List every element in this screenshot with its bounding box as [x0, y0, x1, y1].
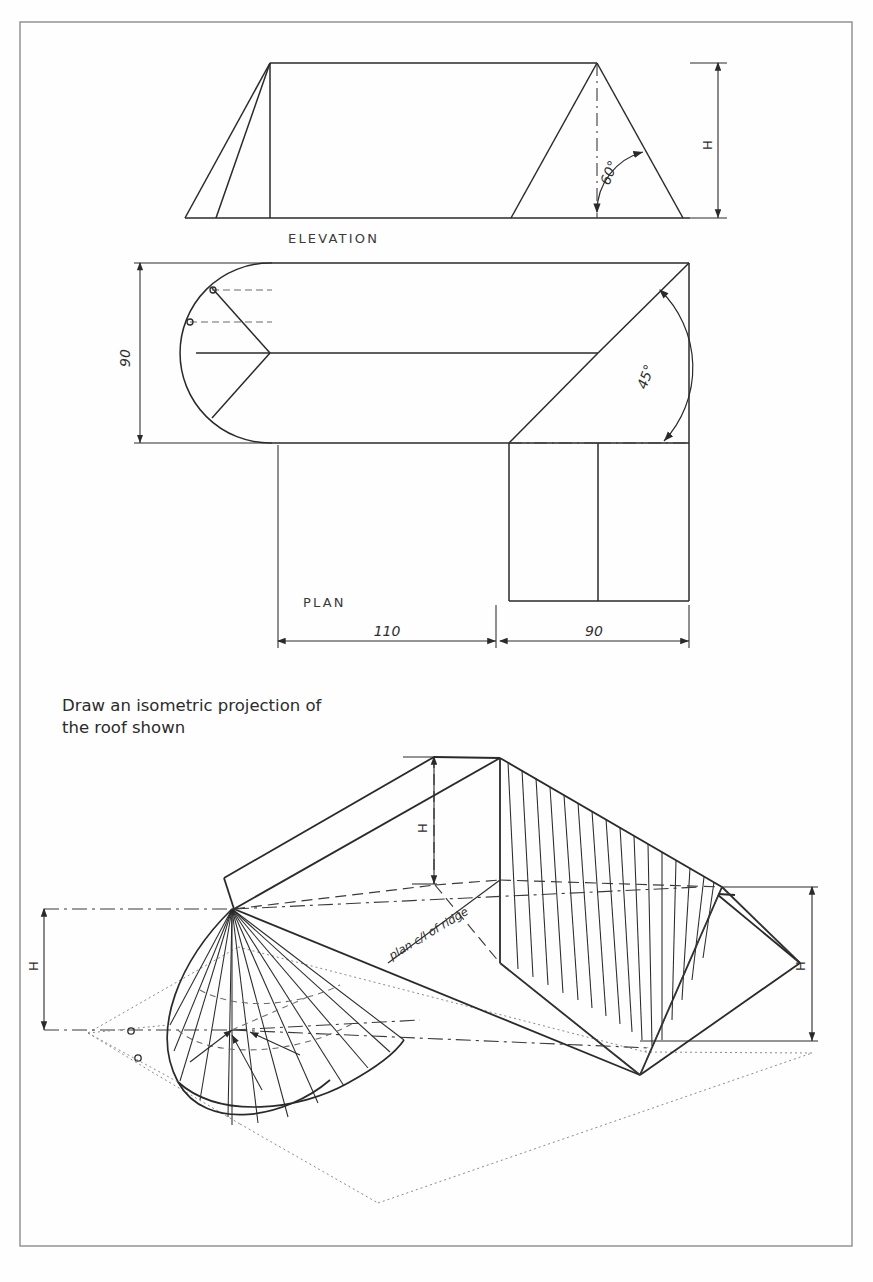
iso-hip-edge-apex: [718, 895, 800, 963]
plan-dim-width-label: 90: [585, 623, 603, 639]
plan-cone-generator-upper: [212, 288, 270, 353]
plan-angle-label: 45°: [634, 362, 658, 391]
elevation-view-label: ELEVATION: [288, 231, 379, 246]
iso-ground-edge-4: [152, 1072, 240, 1124]
technical-drawing-canvas: 60° H ELEVATION: [0, 0, 873, 1282]
iso-back-slope-left: [224, 878, 234, 909]
elevation-view: [185, 63, 690, 218]
plan-cone-generator-lower: [212, 353, 270, 418]
iso-back-slope-upper: [224, 757, 434, 878]
elevation-left-outer-slope: [185, 63, 270, 218]
plan-view: [180, 263, 689, 601]
instruction-note-line1: Draw an isometric projection of: [62, 696, 323, 715]
plan-construction-points: [187, 287, 216, 325]
plan-span-label: 90: [117, 349, 133, 367]
iso-ground-edge-2: [88, 1033, 152, 1072]
page-border-frame: [20, 22, 852, 1246]
iso-ground-edge-5: [240, 1124, 378, 1203]
isometric-cone-points: [128, 1028, 141, 1061]
isometric-roof-body: [224, 757, 800, 1075]
iso-hidden-plan-ridge-2: [435, 880, 500, 885]
iso-hidden-plan-ridge-1: [234, 885, 435, 909]
iso-point-a: [128, 1028, 134, 1034]
iso-cone-outline-left: [167, 909, 330, 1115]
instruction-note-line2: the roof shown: [62, 718, 185, 737]
elevation-right-rear-slope: [511, 63, 597, 218]
elevation-right-front-slope: [597, 63, 683, 218]
iso-hip-small-tab: [718, 894, 735, 895]
plan-view-label: PLAN: [303, 595, 346, 610]
iso-ground-edge-6: [378, 1053, 812, 1203]
isometric-roof-hatching: [508, 762, 714, 1046]
plan-length-dimensions: [278, 445, 689, 648]
isometric-height-dimension-top: [403, 757, 437, 884]
isometric-hidden-lines: [234, 757, 800, 1075]
isometric-cone: [167, 909, 404, 1125]
isometric-height-label-left: H: [26, 961, 41, 971]
iso-hatched-top-edge: [500, 758, 722, 887]
iso-ridge-line: [234, 758, 500, 909]
elevation-height-label: H: [700, 140, 715, 150]
isometric-ridge-label: plan c/l of ridge: [385, 904, 470, 963]
elevation-left-inner-slope: [216, 63, 270, 218]
isometric-height-label-top: H: [415, 823, 430, 833]
plan-dim-length-label: 110: [374, 623, 401, 639]
iso-top-edge: [434, 757, 500, 758]
iso-chain-ridge-plan: [234, 887, 700, 909]
iso-cone-generators: [170, 909, 404, 1123]
isometric-centre-lines: [44, 887, 700, 1048]
drawing-sheet: 60° H ELEVATION: [0, 0, 873, 1282]
plan-angle-arc: [660, 290, 693, 441]
iso-cone-base-arc: [178, 1040, 404, 1107]
elevation-angle-label: 60°: [597, 158, 621, 187]
plan-hip-lower: [509, 353, 598, 443]
isometric-height-dimension-right: [640, 887, 818, 1041]
iso-chain-cross: [232, 1020, 420, 1030]
iso-cone-proj-1: [88, 1033, 178, 1082]
isometric-height-label-right: H: [793, 961, 808, 971]
iso-ground-edge-7: [645, 1052, 812, 1053]
iso-ground-edge-1: [88, 947, 238, 1033]
isometric-ground-construction: [88, 947, 812, 1203]
